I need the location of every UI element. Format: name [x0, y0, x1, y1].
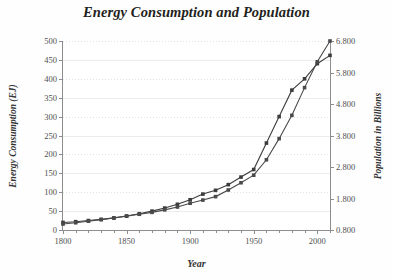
y-tick-label-left: 250 [44, 131, 57, 141]
series-line [63, 55, 330, 222]
series-marker [290, 88, 294, 92]
x-tick-label: 1850 [118, 236, 135, 246]
y-tick-label-right: 6.800 [336, 36, 355, 46]
x-tick [63, 230, 64, 234]
y-tick-label-left: 300 [44, 112, 57, 122]
x-tick [228, 230, 229, 233]
y-tick-label-left: 350 [44, 93, 57, 103]
y-tick-label-right: 2.800 [336, 162, 355, 172]
series-marker [277, 115, 281, 119]
x-tick [152, 230, 153, 233]
y-tick-label-left: 0 [53, 225, 57, 235]
series-marker [252, 168, 256, 172]
series-marker [252, 173, 256, 177]
x-tick [190, 230, 191, 234]
series-marker [87, 219, 91, 223]
series-marker [176, 205, 180, 209]
series-marker [188, 198, 192, 202]
x-tick-label: 1800 [55, 236, 72, 246]
x-tick [139, 230, 140, 233]
series-marker [61, 222, 65, 226]
series-marker [239, 175, 243, 179]
y-tick-label-right: 5.800 [336, 68, 355, 78]
series-marker [328, 39, 332, 43]
chart-root: Energy Consumption and Population 050100… [0, 0, 393, 279]
x-tick [241, 230, 242, 233]
series-marker [265, 158, 269, 162]
x-tick-label: 1900 [182, 236, 199, 246]
series-marker [303, 77, 307, 81]
series-marker [201, 198, 205, 202]
series-marker [112, 216, 116, 220]
x-tick [76, 230, 77, 233]
series-marker [188, 201, 192, 205]
series-marker [226, 183, 230, 187]
series-marker [290, 114, 294, 118]
x-tick-label: 2000 [309, 236, 326, 246]
series-marker [150, 211, 154, 215]
x-tick [305, 230, 306, 233]
y-tick-right [330, 167, 334, 168]
series-lines [63, 41, 330, 230]
series-marker [214, 189, 218, 193]
x-tick [127, 230, 128, 234]
x-tick [292, 230, 293, 233]
chart-title: Energy Consumption and Population [0, 4, 393, 21]
x-tick [165, 230, 166, 233]
y-tick-right [330, 136, 334, 137]
series-energy [61, 54, 332, 225]
series-marker [328, 54, 332, 58]
series-marker [125, 214, 129, 218]
x-tick [88, 230, 89, 233]
y-tick-label-left: 500 [44, 36, 57, 46]
y-tick-label-left: 450 [44, 55, 57, 65]
x-tick [177, 230, 178, 233]
y-tick-label-left: 200 [44, 149, 57, 159]
x-tick [114, 230, 115, 233]
plot-area: 0501001502002503003504004505000.8001.800… [62, 41, 331, 231]
x-tick [216, 230, 217, 233]
y-tick-right [330, 73, 334, 74]
series-marker [277, 137, 281, 141]
x-tick [101, 230, 102, 233]
y-tick-label-left: 150 [44, 168, 57, 178]
y-tick-label-right: 0.800 [336, 225, 355, 235]
series-marker [315, 60, 319, 64]
x-tick [266, 230, 267, 233]
series-marker [201, 192, 205, 196]
x-tick [254, 230, 255, 234]
series-marker [137, 212, 141, 216]
y-tick-label-right: 1.800 [336, 194, 355, 204]
x-tick [317, 230, 318, 234]
series-marker [226, 188, 230, 192]
series-marker [239, 181, 243, 185]
x-tick-label: 1950 [245, 236, 262, 246]
series-marker [265, 141, 269, 145]
series-marker [303, 86, 307, 90]
x-tick [279, 230, 280, 233]
y-tick-label-right: 4.800 [336, 99, 355, 109]
y-tick-right [330, 104, 334, 105]
x-tick [330, 230, 331, 233]
x-tick [203, 230, 204, 233]
y-tick-label-left: 100 [44, 187, 57, 197]
y-axis-title-right: Population in Billions [371, 41, 385, 231]
y-tick-right [330, 199, 334, 200]
y-axis-title-left-text: Energy Consumption (EJ) [8, 84, 18, 187]
y-tick-label-left: 400 [44, 74, 57, 84]
series-population [61, 39, 332, 226]
y-axis-title-left: Energy Consumption (EJ) [6, 41, 20, 231]
series-marker [74, 221, 78, 225]
y-tick-label-left: 50 [49, 206, 58, 216]
series-marker [163, 208, 167, 212]
series-marker [99, 218, 103, 222]
x-axis-title: Year [62, 258, 331, 269]
y-tick-label-right: 3.800 [336, 131, 355, 141]
y-axis-title-right-text: Population in Billions [373, 93, 383, 180]
series-marker [214, 195, 218, 199]
